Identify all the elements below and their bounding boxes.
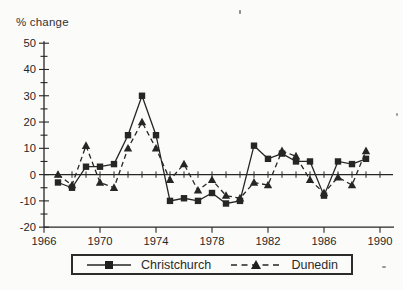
y-tick-label: -20 [20,221,36,233]
christchurch-marker [209,190,215,196]
triangle-marker-icon [230,259,282,271]
dunedin-marker [250,178,258,186]
x-tick-label: 1982 [256,235,281,247]
y-tick-label: 30 [24,90,36,102]
dunedin-marker [348,181,356,189]
christchurch-marker [167,198,173,204]
x-tick-label: 1974 [144,235,169,247]
dunedin-marker [362,147,370,155]
christchurch-marker [181,195,187,201]
christchurch-marker [55,179,61,185]
christchurch-marker [83,164,89,170]
christchurch-marker [251,142,257,148]
y-tick-label: -10 [20,195,36,207]
legend-item-christchurch: Christchurch [86,258,211,272]
x-tick-label: 1970 [88,235,113,247]
y-tick-label: 10 [24,142,36,154]
x-tick-label: 1978 [200,235,225,247]
christchurch-marker [139,93,145,99]
christchurch-line [58,96,366,204]
scan-speck [239,10,241,14]
legend: Christchurch Dunedin [71,254,353,275]
christchurch-marker [125,132,131,138]
scan-speck [382,266,386,268]
dunedin-marker [96,178,104,186]
dunedin-marker [82,141,90,149]
dunedin-marker [68,181,76,189]
dunedin-marker [138,118,146,126]
christchurch-marker [195,198,201,204]
y-tick-label: 0 [30,169,36,181]
legend-item-dunedin: Dunedin [230,258,338,272]
christchurch-marker [97,164,103,170]
y-tick-label: 40 [24,63,36,75]
christchurch-marker [265,156,271,162]
christchurch-marker [223,200,229,206]
dunedin-marker [334,173,342,181]
dunedin-marker [180,160,188,168]
christchurch-marker [335,158,341,164]
chart-figure: % change 50403020100-10-2019661970197419… [0,0,403,290]
christchurch-marker [307,158,313,164]
christchurch-marker [111,161,117,167]
x-tick-label: 1990 [368,235,393,247]
dunedin-marker [306,175,314,183]
y-tick-label: 50 [24,37,36,49]
dunedin-marker [194,186,202,194]
square-marker-icon [86,259,132,271]
legend-label-christchurch: Christchurch [141,258,211,272]
legend-label-dunedin: Dunedin [291,258,338,272]
dunedin-marker [124,144,132,152]
dunedin-marker [208,175,216,183]
dunedin-marker [166,175,174,183]
dunedin-marker [278,147,286,155]
scan-speck [396,113,398,116]
x-tick-label: 1966 [32,235,57,247]
christchurch-marker [349,161,355,167]
x-tick-label: 1986 [312,235,337,247]
plot-area: 50403020100-10-2019661970197419781982198… [0,0,403,290]
christchurch-marker [153,132,159,138]
y-tick-label: 20 [24,116,36,128]
